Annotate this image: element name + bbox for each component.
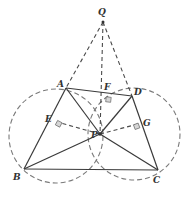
segment-qa xyxy=(66,22,103,88)
label-a: A xyxy=(56,79,64,89)
label-b: B xyxy=(12,172,21,182)
label-c: C xyxy=(153,175,161,185)
right-angle-mark-g xyxy=(133,123,139,129)
point-q xyxy=(102,21,105,24)
segment-cp xyxy=(100,134,158,170)
segment-bc xyxy=(24,169,158,170)
geometry-diagram: Q A D F B C P E G xyxy=(0,0,193,197)
label-e: E xyxy=(44,114,52,124)
segment-ab xyxy=(24,88,66,169)
label-q: Q xyxy=(98,7,106,17)
segment-dc xyxy=(132,96,158,170)
segment-ap xyxy=(66,88,100,134)
segment-qp xyxy=(100,22,103,134)
right-angle-mark-e xyxy=(55,120,62,127)
segment-dp xyxy=(100,96,132,134)
label-g: G xyxy=(143,118,151,128)
segment-bp xyxy=(24,134,100,169)
segment-pg xyxy=(100,124,138,134)
label-d: D xyxy=(133,87,142,97)
label-p: P xyxy=(90,130,98,140)
point-p xyxy=(98,132,102,136)
label-f: F xyxy=(103,82,111,92)
right-angle-mark-f xyxy=(106,97,112,103)
